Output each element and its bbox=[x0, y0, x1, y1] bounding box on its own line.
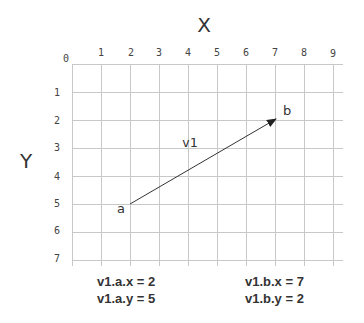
y-tick: 5 bbox=[54, 198, 60, 209]
x-tick: 7 bbox=[272, 47, 278, 58]
y-tick: 7 bbox=[54, 253, 60, 264]
vector-diagram: X Y 0 1 2 bbox=[0, 0, 364, 323]
x-tick: 3 bbox=[156, 47, 162, 58]
x-tick: 5 bbox=[214, 47, 220, 58]
y-tick: 1 bbox=[54, 87, 60, 98]
x-axis-title: X bbox=[197, 13, 211, 37]
x-tick-labels: 0 1 2 3 4 5 6 7 8 9 bbox=[63, 47, 336, 64]
b-y-value: v1.b.y = 2 bbox=[245, 290, 304, 307]
vector-v1-label: v1 bbox=[182, 135, 198, 150]
x-tick: 2 bbox=[128, 47, 134, 58]
a-y-value: v1.a.y = 5 bbox=[97, 290, 155, 307]
x-tick: 8 bbox=[301, 47, 307, 58]
b-x-value: v1.b.x = 7 bbox=[245, 273, 304, 290]
point-b-coordinates: v1.b.x = 7 v1.b.y = 2 bbox=[245, 273, 304, 307]
x-tick: 1 bbox=[98, 47, 104, 58]
y-tick-labels: 1 2 3 4 5 6 7 bbox=[54, 87, 60, 264]
y-tick: 6 bbox=[54, 225, 60, 236]
a-x-value: v1.a.x = 2 bbox=[97, 273, 155, 290]
x-tick: 0 bbox=[63, 53, 69, 64]
x-tick: 6 bbox=[243, 47, 249, 58]
point-b-label: b bbox=[283, 103, 291, 118]
y-axis-title: Y bbox=[19, 149, 33, 173]
x-tick: 4 bbox=[185, 47, 191, 58]
vector-v1-arrow bbox=[130, 119, 276, 204]
y-tick: 3 bbox=[54, 142, 60, 153]
grid bbox=[72, 64, 343, 266]
x-tick: 9 bbox=[330, 48, 336, 59]
point-a-label: a bbox=[117, 201, 125, 216]
y-tick: 4 bbox=[54, 171, 60, 182]
y-tick: 2 bbox=[54, 115, 60, 126]
point-a-coordinates: v1.a.x = 2 v1.a.y = 5 bbox=[97, 273, 155, 307]
